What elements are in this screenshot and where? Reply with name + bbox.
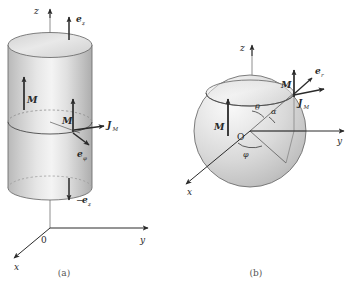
cylinder-body bbox=[8, 45, 92, 200]
label-J-M-a-sub: M bbox=[112, 126, 119, 132]
axis-label-z-a: z bbox=[33, 6, 39, 16]
angle-label-phi: φ bbox=[243, 150, 249, 159]
label-e-r-b-sub: r bbox=[321, 72, 324, 78]
origin-label-a: 0 bbox=[41, 235, 47, 245]
label-M-center-a: M bbox=[61, 115, 73, 126]
caption-b: (b) bbox=[250, 268, 263, 278]
caption-a: (a) bbox=[58, 268, 70, 278]
axis-label-z-b: z bbox=[239, 43, 245, 53]
label-J-M-a: J bbox=[105, 120, 112, 130]
label-e-phi-a-sub: φ bbox=[83, 155, 87, 162]
angle-label-alpha: α bbox=[271, 107, 277, 116]
label-M-left-a: M bbox=[26, 94, 38, 105]
angle-label-theta: θ bbox=[255, 103, 260, 112]
panel-b-sphere: z θ α φ M M e r J bbox=[186, 43, 344, 278]
label-J-M-b-sub: M bbox=[303, 104, 310, 110]
label-M-top-b: M bbox=[280, 79, 292, 90]
cylinder-top-cap bbox=[8, 33, 92, 58]
axis-label-y-a: y bbox=[139, 235, 146, 245]
origin-label-b: O bbox=[237, 132, 244, 142]
panel-a-cylinder: e z M M J M e φ − e z z y x 0 (a) bbox=[8, 6, 148, 278]
label-J-M-b: J bbox=[296, 98, 303, 108]
physics-figure: e z M M J M e φ − e z z y x 0 (a) bbox=[0, 0, 352, 289]
axis-label-x-a: x bbox=[14, 262, 19, 272]
axis-label-y-b: y bbox=[336, 136, 343, 146]
figure-canvas: e z M M J M e φ − e z z y x 0 (a) bbox=[0, 0, 352, 289]
axis-label-x-b: x bbox=[187, 187, 192, 197]
label-M-left-b: M bbox=[213, 121, 225, 132]
label-e-z-top-sub: z bbox=[81, 20, 85, 26]
label-minus-e-z-sub: z bbox=[87, 201, 91, 207]
